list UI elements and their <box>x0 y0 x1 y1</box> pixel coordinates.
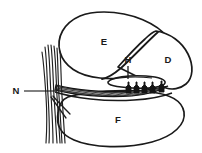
label-H: H <box>125 54 132 65</box>
label-F: F <box>115 114 121 125</box>
label-E: E <box>101 36 107 47</box>
anatomical-diagram-svg: E D H N F <box>0 0 202 153</box>
label-N: N <box>13 85 20 96</box>
fiber-bundle-N <box>42 45 65 143</box>
figure-container: E D H N F <box>0 0 202 153</box>
label-D: D <box>165 54 172 65</box>
